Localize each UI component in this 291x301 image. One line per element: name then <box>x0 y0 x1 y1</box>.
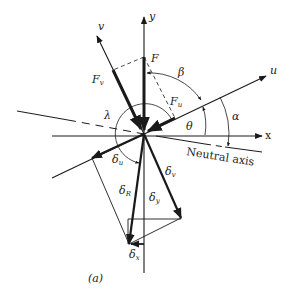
force-Fu-vector <box>148 118 175 131</box>
neutral-axis <box>17 111 68 120</box>
lambda-label: λ <box>103 109 111 122</box>
delta-x-label: δx <box>129 248 140 262</box>
force-Fv-label: Fv <box>91 73 104 87</box>
deflection-diagram: y x u v F Fv Fu β θ α λ Neutral axis δu … <box>0 0 291 301</box>
v-axis-label: v <box>98 20 105 33</box>
neutral-axis-label: Neutral axis <box>186 145 256 169</box>
delta-R-label: δR <box>119 184 132 198</box>
delta-u-label: δu <box>112 153 124 167</box>
figure-caption: (a) <box>88 272 103 285</box>
x-axis-label: x <box>265 129 272 142</box>
theta-label: θ <box>186 120 193 133</box>
force-F-label: F <box>150 52 159 65</box>
force-Fv-vector <box>113 70 141 129</box>
alpha-label: α <box>232 110 240 123</box>
u-axis-label: u <box>270 64 277 77</box>
theta-arc <box>203 107 206 135</box>
beta-label: β <box>177 66 184 79</box>
alpha-arc <box>220 97 229 146</box>
delta-y-label: δy <box>149 191 161 205</box>
y-axis-label: y <box>148 10 156 23</box>
force-Fu-label: Fu <box>169 95 183 109</box>
delta-R-vector <box>129 134 144 244</box>
delta-v-label: δv <box>165 165 176 179</box>
